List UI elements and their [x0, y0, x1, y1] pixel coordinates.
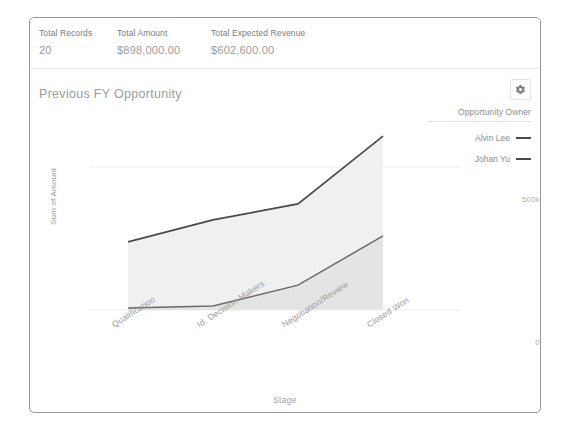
chart-panel: Previous FY Opportunity Opportunity Owne… [30, 69, 540, 412]
metric-value: $898,000.00 [117, 42, 180, 58]
screenshot-root: Total Records 20 Total Amount $898,000.0… [0, 0, 572, 433]
dashboard-card: Total Records 20 Total Amount $898,000.0… [29, 17, 541, 413]
x-axis-title: Stage [30, 395, 540, 405]
summary-metrics-bar: Total Records 20 Total Amount $898,000.0… [30, 18, 540, 69]
area-chart-svg [30, 69, 541, 413]
metric-total-expected-revenue: Total Expected Revenue $602,600.00 [211, 28, 305, 58]
metric-value: 20 [39, 42, 92, 58]
metric-label: Total Expected Revenue [211, 28, 305, 39]
plot-area: Sum of Amount 500k 0 Qualification Id. D… [30, 69, 540, 412]
metric-value: $602,600.00 [211, 42, 305, 58]
metric-label: Total Records [39, 28, 92, 39]
metric-total-records: Total Records 20 [39, 28, 92, 58]
metric-total-amount: Total Amount $898,000.00 [117, 28, 180, 58]
metric-label: Total Amount [117, 28, 180, 39]
